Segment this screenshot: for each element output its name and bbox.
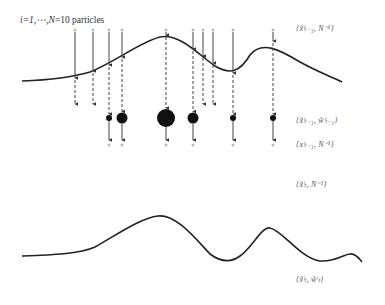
stage-label-predicted: {x̃ⁱₜ, N⁻¹} <box>296 180 327 189</box>
weighted-particle <box>106 115 112 121</box>
resampled-particle <box>108 144 111 147</box>
stage-label-weighted-prior: {x̃ⁱₜ₋₁, w̃ⁱₜ₋₁} <box>296 116 338 125</box>
prior-particle <box>92 29 95 32</box>
weighted-particle <box>270 115 276 121</box>
resampled-particle <box>232 144 235 147</box>
prior-particle <box>74 29 77 32</box>
stage-label-resampled: {xⁱₜ₋₁, N⁻¹} <box>296 140 334 149</box>
prior-particle <box>165 29 168 32</box>
weighted-particle <box>157 109 175 127</box>
weighted-particle <box>117 113 128 124</box>
particle-filter-diagram <box>0 0 385 305</box>
prior-particle <box>212 29 215 32</box>
prior-particle <box>202 29 205 32</box>
weighted-particle <box>230 115 236 121</box>
resampling-arrows <box>108 144 275 163</box>
prior-particle <box>108 29 111 32</box>
likelihood-curve-bottom <box>22 216 362 262</box>
resampled-origin <box>164 158 168 162</box>
weighted-particle <box>188 113 199 124</box>
prior-particle <box>192 29 195 32</box>
resampled-particle <box>165 144 168 147</box>
resampled-particle <box>121 144 124 147</box>
prior-particle-arrows <box>74 29 277 141</box>
prior-particle <box>272 29 275 32</box>
stage-label-weighted-posterior: {x̃ⁱₜ, w̃ⁱₜ} <box>296 275 323 284</box>
likelihood-curve-top <box>22 37 342 82</box>
stage-label-prior-particles: {x̃ⁱₜ₋₁, N⁻¹} <box>296 24 334 33</box>
prior-particle <box>121 29 124 32</box>
resampled-particle <box>192 144 195 147</box>
prior-particle <box>232 29 235 32</box>
resampled-particle <box>272 144 275 147</box>
